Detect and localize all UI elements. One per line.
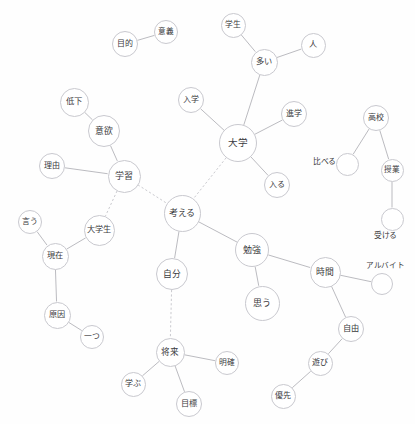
node-label-jikan: 時間 [316,268,333,277]
node-hairu[interactable]: 入る [264,172,290,198]
node-igi[interactable]: 意義 [154,20,178,44]
node-label-yuusen: 優先 [275,392,290,400]
node-label-hairu: 入る [269,181,284,189]
node-label-jugyou: 授業 [384,166,399,174]
node-gakusei[interactable]: 学生 [221,13,246,38]
node-label-omou: 思う [253,299,270,308]
node-riyu[interactable]: 理由 [39,153,65,179]
node-label-genzai: 現在 [47,252,62,260]
node-iu[interactable]: 言う [18,210,42,234]
node-daigaku[interactable]: 大学 [219,124,257,162]
cooccurrence-network-diagram: 目的意義学生人多い低下入学進学高校意欲大学理由比べる授業学習入る考える受ける言う… [0,0,415,424]
node-label-nyugaku: 入学 [183,96,198,104]
node-jugyou[interactable]: 授業 [381,159,404,182]
node-label-riyu: 理由 [44,162,59,170]
node-manabu[interactable]: 学ぶ [121,372,146,397]
node-gen-in[interactable]: 原因 [44,302,71,329]
node-label-hitotsu: 一つ [84,333,99,341]
node-teika[interactable]: 低下 [60,88,89,117]
node-label-benkyou: 勉強 [243,246,260,255]
node-label-manabu: 学ぶ [125,380,140,388]
node-benkyou[interactable]: 勉強 [235,233,269,267]
node-label-iu: 言う [22,218,37,226]
node-label-kuraberu: 比べる [313,158,336,166]
node-gakushuu[interactable]: 学習 [108,160,141,193]
node-arubaito[interactable] [371,273,393,295]
node-yuusen[interactable]: 優先 [271,384,296,409]
node-ooi[interactable]: 多い [251,49,278,76]
node-ukeru[interactable] [381,208,404,231]
node-label-daigaku: 大学 [228,138,247,148]
node-koukou[interactable]: 高校 [363,105,389,131]
node-label-hito: 人 [309,41,317,49]
node-label-daigakusei: 大学生 [87,226,110,234]
node-genzai[interactable]: 現在 [42,243,69,270]
node-label-gen-in: 原因 [49,311,64,319]
node-label-arubaito: アルバイト [366,262,405,270]
node-label-jibun: 自分 [163,270,180,279]
node-kuraberu[interactable] [336,153,359,176]
node-label-ooi: 多い [256,58,271,66]
node-label-shingaku: 進学 [286,110,301,118]
node-label-iyoku: 意欲 [95,127,112,136]
node-mokuhyou[interactable]: 目標 [176,391,202,417]
node-kangaeru[interactable]: 考える [164,195,201,232]
node-label-shourai: 将来 [161,348,178,357]
node-shourai[interactable]: 将来 [156,338,185,367]
node-label-ukeru: 受ける [374,232,397,240]
node-label-igi: 意義 [158,28,173,36]
node-label-jiyuu: 自由 [343,325,358,333]
node-label-mokuhyou: 目標 [181,400,196,408]
node-iyoku[interactable]: 意欲 [88,115,120,147]
node-label-gakusei: 学生 [225,21,240,29]
node-hito[interactable]: 人 [301,33,326,58]
node-jibun[interactable]: 自分 [156,258,188,290]
node-label-koukou: 高校 [368,114,383,122]
node-jiyuu[interactable]: 自由 [338,316,364,342]
node-mokuteki[interactable]: 目的 [112,31,138,57]
node-daigakusei[interactable]: 大学生 [84,215,115,246]
node-label-asobi: 遊び [312,359,327,367]
node-asobi[interactable]: 遊び [308,351,333,376]
node-label-gakushuu: 学習 [115,172,132,181]
node-hitotsu[interactable]: 一つ [80,325,104,349]
node-meikaku[interactable]: 明確 [215,351,239,375]
node-shingaku[interactable]: 進学 [281,101,307,127]
node-jikan[interactable]: 時間 [310,257,341,288]
node-label-meikaku: 明確 [219,359,234,367]
node-layer: 目的意義学生人多い低下入学進学高校意欲大学理由比べる授業学習入る考える受ける言う… [0,0,415,424]
node-omou[interactable]: 思う [245,286,280,321]
node-label-kangaeru: 考える [169,209,195,218]
node-nyugaku[interactable]: 入学 [178,87,204,113]
node-label-teika: 低下 [66,98,81,106]
node-label-mokuteki: 目的 [117,40,132,48]
